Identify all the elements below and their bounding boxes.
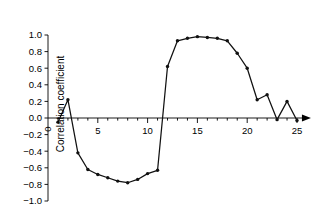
y-axis: −1.0−0.8−0.6−0.4−0.20.00.20.40.60.81.0 [23,29,48,206]
x-axis-tick-label: 15 [192,125,203,136]
data-point-marker [206,36,209,39]
y-axis-tick-label: −0.8 [23,179,42,190]
y-axis-title: Correlation coefficient [55,56,66,153]
x-axis: 5101520250 [42,115,311,136]
data-point-marker [295,119,298,122]
data-point-marker [76,151,79,154]
y-axis-tick-label: 0.6 [29,63,42,74]
data-point-marker [255,98,258,101]
data-point-marker [166,65,169,68]
data-point-marker [275,118,278,121]
x-axis-arrow-icon [302,115,311,122]
y-axis-tick-label: 0.8 [29,46,42,57]
x-axis-tick-label: 25 [292,125,303,136]
y-axis-tick-label: 0.2 [29,96,42,107]
correlation-coefficient-chart: −1.0−0.8−0.6−0.4−0.20.00.20.40.60.81.0 5… [0,0,322,221]
chart-plot-area: −1.0−0.8−0.6−0.4−0.20.00.20.40.60.81.0 5… [0,0,322,221]
data-series-line [56,35,298,184]
x-axis-origin-label: 0 [42,126,53,131]
data-point-marker [176,39,179,42]
data-point-marker [66,98,69,101]
data-point-marker [246,67,249,70]
y-axis-tick-label: −0.6 [23,162,42,173]
data-point-marker [86,168,89,171]
x-axis-tick-label: 20 [242,125,253,136]
data-point-marker [116,179,119,182]
y-axis-tick-label: −1.0 [23,195,42,206]
data-point-marker [265,93,268,96]
data-point-marker [226,39,229,42]
data-point-marker [136,178,139,181]
x-axis-tick-label: 5 [95,125,100,136]
data-point-marker [216,37,219,40]
data-point-marker [126,181,129,184]
y-axis-tick-label: 1.0 [29,29,42,40]
data-point-marker [146,172,149,175]
data-point-marker [236,52,239,55]
data-point-marker [96,173,99,176]
data-point-marker [285,100,288,103]
data-point-marker [156,169,159,172]
y-axis-tick-label: −0.2 [23,129,42,140]
y-axis-tick-label: −0.4 [23,146,42,157]
data-point-marker [106,176,109,179]
y-axis-tick-label: 0.4 [29,79,42,90]
x-axis-tick-label: 10 [142,125,153,136]
data-point-marker [186,37,189,40]
data-point-marker [196,35,199,38]
series-polyline [58,37,297,183]
y-axis-tick-label: 0.0 [29,112,42,123]
